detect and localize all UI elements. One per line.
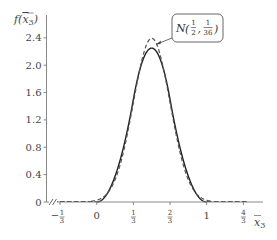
y-axis: 00.40.81.21.62.02.4 — [26, 15, 47, 208]
svg-text:(: ( — [185, 23, 190, 36]
svg-text:1: 1 — [131, 209, 135, 217]
arrowhead-icon — [156, 41, 161, 45]
axis-break-icon — [49, 199, 57, 205]
svg-text:3: 3 — [60, 217, 64, 225]
normal-annotation: N(12,136) — [156, 14, 223, 45]
y-tick-label: 0 — [35, 197, 41, 208]
y-tick-label: 2.0 — [26, 60, 42, 71]
svg-text:1: 1 — [191, 19, 195, 27]
svg-text:3: 3 — [131, 217, 135, 225]
svg-text:−: − — [51, 210, 59, 221]
density-chart: 00.40.81.21.62.02.4 −1301323143 f(x3) x3… — [0, 0, 277, 240]
svg-text:2: 2 — [191, 29, 195, 37]
y-axis-label: f(x3) — [13, 13, 38, 27]
x-tick-label: −13 — [51, 209, 65, 225]
x-tick-label: 1 — [204, 210, 210, 221]
svg-text:3: 3 — [168, 217, 172, 225]
svg-text:): ) — [213, 23, 218, 36]
svg-text:4: 4 — [241, 209, 246, 217]
y-tick-label: 1.2 — [26, 114, 42, 125]
svg-text:0: 0 — [94, 210, 100, 221]
svg-text:36: 36 — [204, 29, 213, 37]
x-tick-label: 0 — [94, 210, 100, 221]
svg-text:,: , — [198, 22, 202, 35]
y-tick-label: 1.6 — [26, 87, 42, 98]
svg-text:1: 1 — [60, 209, 64, 217]
density-curve — [97, 48, 207, 202]
plot-area — [53, 38, 249, 202]
x-axis-label: x3 — [254, 216, 265, 230]
x-tick-label: 43 — [241, 209, 246, 225]
y-tick-label: 0.8 — [26, 142, 42, 153]
x-tick-label: 23 — [168, 209, 173, 225]
y-tick-label: 0.4 — [26, 169, 42, 180]
x-tick-label: 13 — [131, 209, 136, 225]
svg-text:1: 1 — [204, 210, 210, 221]
svg-text:1: 1 — [206, 19, 210, 27]
normal-curve — [91, 38, 212, 201]
svg-text:3: 3 — [241, 217, 245, 225]
x-axis: −1301323143 — [47, 199, 264, 225]
y-tick-label: 2.4 — [26, 32, 42, 43]
svg-text:2: 2 — [168, 209, 172, 217]
